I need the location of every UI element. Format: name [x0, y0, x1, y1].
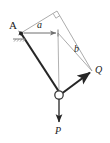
- pin-joint-circle-icon: [55, 91, 63, 99]
- label-dimension-a: a: [37, 20, 42, 30]
- pin-support-node-a: [19, 32, 23, 36]
- label-dimension-b: b: [74, 44, 79, 54]
- force-vector-q: [63, 73, 91, 94]
- label-support-a: A: [9, 20, 17, 31]
- label-force-q: Q: [95, 65, 102, 75]
- label-force-p: P: [55, 126, 61, 136]
- construction-line-vertical: [58, 33, 59, 92]
- link-member-a-joint: [22, 34, 59, 91]
- construction-line-top-right: [57, 11, 92, 71]
